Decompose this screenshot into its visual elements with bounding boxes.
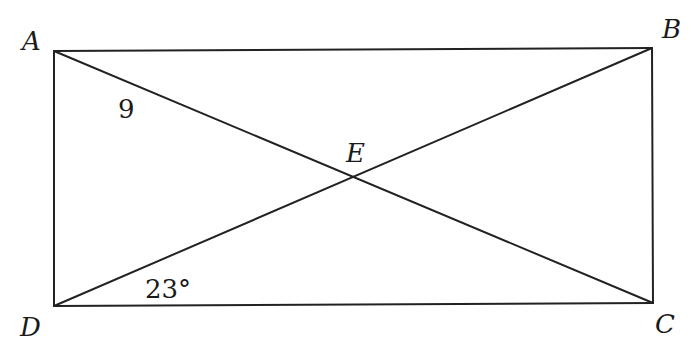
diagonal-bd (54, 48, 652, 306)
vertex-label-c: C (655, 311, 675, 337)
intersection-label-e: E (346, 140, 365, 166)
segment-length-ae: 9 (118, 96, 135, 122)
side-ab (54, 48, 652, 51)
side-bc (652, 48, 653, 303)
vertex-label-a: A (22, 28, 41, 54)
vertex-label-b: B (662, 16, 681, 42)
angle-measure-bdc: 23° (145, 276, 191, 302)
rectangle-diagram (0, 0, 691, 351)
vertex-label-d: D (20, 314, 41, 340)
side-cd (54, 303, 653, 306)
